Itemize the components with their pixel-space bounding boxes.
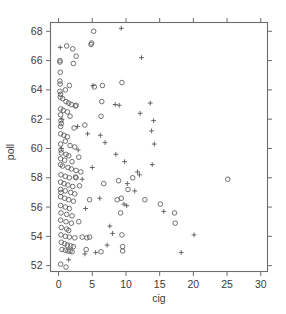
x-tick-label: 10 xyxy=(120,278,132,290)
point-circle xyxy=(58,89,63,94)
point-circle xyxy=(116,178,121,183)
point-circle xyxy=(84,247,89,252)
point-circle xyxy=(63,139,68,144)
point-circle xyxy=(74,54,79,59)
point-plus xyxy=(150,162,155,167)
point-circle xyxy=(70,184,75,189)
point-plus xyxy=(107,224,112,229)
point-circle xyxy=(69,221,74,226)
point-circle xyxy=(172,211,177,216)
y-tick-label: 60 xyxy=(31,142,43,154)
point-plus xyxy=(151,118,156,123)
point-plus xyxy=(75,124,80,129)
point-circle xyxy=(99,114,104,119)
data-points xyxy=(58,26,230,269)
point-circle xyxy=(59,190,64,195)
point-plus xyxy=(113,102,118,107)
point-circle xyxy=(83,123,88,128)
point-circle xyxy=(120,249,125,254)
x-axis-label: cig xyxy=(152,292,166,304)
point-circle xyxy=(63,88,68,93)
point-circle xyxy=(59,211,64,216)
plot-canvas: 051015202530 525456586062646668 cig poll xyxy=(0,0,286,314)
point-plus xyxy=(119,26,124,31)
y-tick-label: 58 xyxy=(31,171,43,183)
point-circle xyxy=(70,214,75,219)
point-circle xyxy=(63,189,68,194)
point-circle xyxy=(100,83,105,88)
point-plus xyxy=(192,232,197,237)
point-plus xyxy=(161,209,166,214)
point-circle xyxy=(71,199,76,204)
x-tick-labels: 051015202530 xyxy=(56,278,267,290)
point-circle xyxy=(68,143,73,148)
point-plus xyxy=(110,231,115,236)
point-plus xyxy=(149,128,154,133)
y-tick-label: 52 xyxy=(31,259,43,271)
point-plus xyxy=(82,252,87,257)
point-circle xyxy=(64,212,69,217)
point-plus xyxy=(97,196,102,201)
point-plus xyxy=(105,243,110,248)
point-plus xyxy=(98,133,103,138)
point-circle xyxy=(72,192,77,197)
point-plus xyxy=(58,45,63,50)
point-circle xyxy=(74,168,79,173)
point-circle xyxy=(64,265,69,270)
point-circle xyxy=(59,233,64,238)
point-circle xyxy=(72,236,77,241)
point-plus xyxy=(113,152,118,157)
point-circle xyxy=(71,61,76,66)
y-tick-labels: 525456586062646668 xyxy=(31,25,43,271)
point-plus xyxy=(148,101,153,106)
point-circle xyxy=(66,197,71,202)
point-circle xyxy=(64,219,69,224)
point-circle xyxy=(67,206,72,211)
point-circle xyxy=(126,187,131,192)
point-circle xyxy=(79,170,84,175)
point-circle xyxy=(67,175,72,180)
point-circle xyxy=(120,80,125,85)
point-plus xyxy=(122,159,127,164)
point-plus xyxy=(85,131,90,136)
right-axis-ticks xyxy=(268,31,273,265)
point-circle xyxy=(130,175,135,180)
top-axis-ticks xyxy=(59,18,261,23)
point-plus xyxy=(90,165,95,170)
point-plus xyxy=(91,83,96,88)
point-plus xyxy=(125,181,130,186)
point-circle xyxy=(62,158,67,163)
point-circle xyxy=(80,235,85,240)
point-circle xyxy=(120,233,125,238)
point-circle xyxy=(120,244,125,249)
point-circle xyxy=(58,218,63,223)
scatter-plot-figure: 051015202530 525456586062646668 cig poll xyxy=(0,0,286,314)
point-circle xyxy=(143,197,148,202)
point-circle xyxy=(91,29,96,34)
y-axis-ticks xyxy=(46,31,51,265)
y-tick-label: 66 xyxy=(31,54,43,66)
y-tick-label: 54 xyxy=(31,230,43,242)
point-circle xyxy=(70,47,75,52)
point-plus xyxy=(80,177,85,182)
point-circle xyxy=(77,155,82,160)
point-plus xyxy=(83,206,88,211)
point-circle xyxy=(67,83,72,88)
point-plus xyxy=(132,189,137,194)
point-circle xyxy=(99,99,104,104)
point-circle xyxy=(58,262,63,267)
axes-box xyxy=(51,23,268,272)
point-circle xyxy=(68,114,73,119)
x-tick-label: 25 xyxy=(221,278,233,290)
point-circle xyxy=(101,181,106,186)
point-circle xyxy=(158,202,163,207)
point-plus xyxy=(139,55,144,60)
point-circle xyxy=(58,70,63,75)
point-circle xyxy=(77,184,82,189)
point-circle xyxy=(87,235,92,240)
point-circle xyxy=(71,244,76,249)
point-plus xyxy=(138,111,143,116)
x-tick-label: 5 xyxy=(89,278,95,290)
point-circle xyxy=(59,173,64,178)
point-circle xyxy=(59,225,64,230)
